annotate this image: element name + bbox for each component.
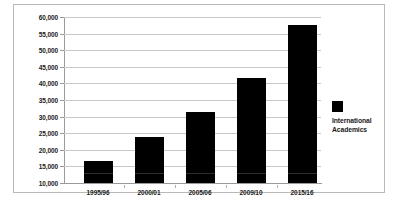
chart-frame: 60,000 55,000 50,000 45,000 40,000 35,00…	[13, 4, 385, 193]
gridline	[64, 67, 321, 68]
y-axis-tick	[60, 50, 64, 51]
y-axis-tick	[60, 83, 64, 84]
y-axis-tick-label: 40,000	[39, 80, 58, 87]
legend-color-swatch	[332, 101, 343, 112]
y-axis-tick	[60, 166, 64, 167]
x-axis-tick-label: 2005/06	[189, 189, 212, 196]
y-axis-tick-label: 30,000	[39, 113, 58, 120]
y-axis-tick-label: 50,000	[39, 47, 58, 54]
chart-legend: International Academics	[332, 101, 396, 134]
bar-seam	[186, 173, 215, 174]
plot-area	[64, 17, 321, 183]
y-axis-tick	[60, 133, 64, 134]
legend-label-line-2: Academics	[332, 125, 396, 134]
x-axis-tick	[277, 185, 278, 188]
bar	[186, 112, 215, 183]
y-axis-tick-label: 55,000	[39, 30, 58, 37]
gridline	[64, 17, 321, 18]
bar	[288, 25, 317, 183]
x-axis-tick-label: 2000/01	[138, 189, 161, 196]
bar	[135, 137, 164, 183]
x-axis-tick-label: 1995/96	[87, 189, 110, 196]
x-axis-tick	[124, 185, 125, 188]
legend-entry-label: International Academics	[332, 116, 396, 134]
bar	[84, 161, 113, 183]
gridline	[64, 50, 321, 51]
x-axis-tick-label: 2009/10	[240, 189, 263, 196]
y-axis-tick-label: 60,000	[39, 14, 58, 21]
legend-label-line-1: International	[332, 116, 396, 125]
y-axis-tick-label: 35,000	[39, 97, 58, 104]
bar-seam	[288, 173, 317, 174]
x-axis-tick	[226, 185, 227, 188]
y-axis-tick	[60, 150, 64, 151]
x-axis-tick	[175, 185, 176, 188]
x-axis-tick-labels: 1995/96 2000/01 2005/06 2009/10 2015/16	[64, 185, 321, 199]
y-axis-tick-labels: 60,000 55,000 50,000 45,000 40,000 35,00…	[14, 17, 58, 183]
y-axis-tick	[60, 34, 64, 35]
y-axis-tick-label: 10,000	[39, 180, 58, 187]
y-axis-tick	[60, 117, 64, 118]
y-axis-tick	[60, 67, 64, 68]
gridline	[64, 83, 321, 84]
y-axis-tick-label: 15,000	[39, 163, 58, 170]
bar-seam	[84, 173, 113, 174]
y-axis-tick-label: 45,000	[39, 63, 58, 70]
x-axis-tick-label: 2015/16	[291, 189, 314, 196]
gridline	[64, 34, 321, 35]
bar-seam	[237, 173, 266, 174]
bar-seam	[135, 173, 164, 174]
y-axis-tick-label: 25,000	[39, 130, 58, 137]
x-axis-line	[64, 183, 322, 184]
y-axis-tick-label: 20,000	[39, 146, 58, 153]
y-axis-tick	[60, 100, 64, 101]
y-axis-tick	[60, 17, 64, 18]
gridline	[64, 100, 321, 101]
bar	[237, 78, 266, 183]
